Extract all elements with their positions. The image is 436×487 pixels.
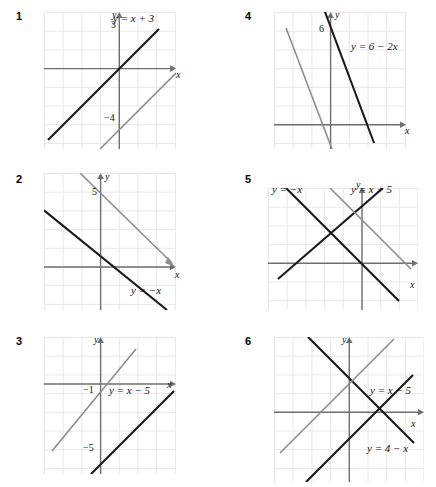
- panel-1-number: 1: [16, 11, 22, 22]
- panel-1-x-axis-label: x: [176, 70, 180, 80]
- panel-5-number: 5: [245, 174, 251, 185]
- x-axis-arrow: [418, 409, 424, 416]
- panel-6-number: 6: [245, 336, 251, 347]
- panel-5-x-axis-label: x: [410, 280, 414, 290]
- panel-2: 2: [0, 160, 218, 325]
- panel-3-tick-minus-5: −5: [83, 443, 94, 453]
- panel-1-tick-3: 3: [111, 20, 116, 30]
- panel-6-equation-1: y = x − 5: [370, 385, 411, 396]
- panel-4-number: 4: [245, 11, 251, 22]
- panel-5: 5: [218, 160, 436, 325]
- panel-6-svg: [274, 337, 424, 482]
- panel-2-x-axis-label: x: [175, 270, 179, 280]
- panel-4-equation-1: y = 6 − 2x: [351, 41, 398, 52]
- panel-6: 6: [218, 325, 436, 487]
- panel-2-equation-1: y = −x: [131, 285, 161, 296]
- panel-4: 4: [218, 0, 436, 160]
- x-axis-arrow: [412, 260, 418, 267]
- panel-3-number: 3: [16, 336, 22, 347]
- panel-5-svg: [268, 188, 418, 310]
- axes: [274, 343, 418, 482]
- panel-3-svg: [44, 337, 176, 474]
- panel-1: 1: [0, 0, 218, 160]
- line-y-eq-x-minus-1: [52, 349, 136, 451]
- panel-3-y-axis-label: y: [94, 335, 98, 345]
- panel-2-y-axis-label: y: [105, 172, 109, 182]
- panel-2-number: 2: [16, 174, 22, 185]
- panel-3: 3: [0, 325, 218, 487]
- panel-1-y-axis-label: y: [112, 10, 116, 20]
- panel-6-equation-2: y = 4 − x: [367, 443, 408, 454]
- panel-6-graph: [274, 337, 424, 482]
- line-y-eq-x-plus-3: [48, 29, 159, 140]
- grid-lines: [274, 12, 406, 149]
- panel-1-svg: [44, 12, 176, 149]
- panel-4-x-axis-label: x: [405, 126, 409, 136]
- panel-4-svg: [274, 12, 406, 149]
- worksheet-page: 1: [0, 0, 436, 487]
- panel-3-graph: [44, 337, 176, 474]
- grid-lines: [44, 337, 176, 474]
- panel-4-graph: [274, 12, 406, 149]
- panel-5-y-axis-label: y: [356, 180, 360, 190]
- panel-4-tick-6: 6: [319, 24, 324, 34]
- panel-1-tick-minus-4: −4: [104, 113, 115, 123]
- line-y-eq-x-minus-5: [91, 391, 174, 474]
- panel-1-equation-1: y = x + 3: [113, 13, 154, 24]
- panel-6-x-axis-label: x: [411, 419, 415, 429]
- panel-6-y-axis-label: y: [342, 335, 346, 345]
- panel-1-graph: [44, 12, 176, 149]
- panel-3-tick-minus-1: −1: [83, 385, 94, 395]
- panel-4-y-axis-label: y: [335, 10, 339, 20]
- grid-lines: [268, 188, 418, 310]
- line-y-eq-x-plus-5: [278, 188, 383, 279]
- panel-3-equation-1: y = x − 5: [109, 385, 150, 396]
- panel-5-graph: [268, 188, 418, 310]
- panel-5-equation-1: y = −x: [272, 184, 302, 195]
- panel-3-x-axis-label: x: [167, 380, 171, 390]
- panel-2-tick-5: 5: [92, 187, 97, 197]
